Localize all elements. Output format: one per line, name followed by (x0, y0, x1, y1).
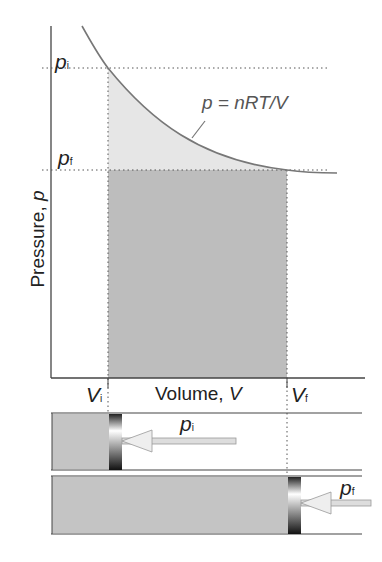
label-vi: Vi (86, 383, 102, 407)
equation-label: p = nRT/V (202, 92, 288, 114)
gas-initial (52, 414, 109, 469)
equation-pointer (192, 121, 205, 138)
piston-final (288, 477, 301, 534)
y-axis-label: Pressure, p (27, 159, 49, 319)
label-pf: pf (58, 146, 72, 170)
label-pi: pi (55, 50, 69, 74)
pv-diagram (0, 0, 382, 562)
x-axis-label: Volume, V (155, 383, 242, 405)
work-rectangle (108, 170, 287, 378)
cylinder-final-pressure: pf (340, 476, 354, 500)
gas-final (52, 477, 288, 533)
curve-area-region (108, 68, 287, 170)
piston-initial (109, 414, 122, 470)
label-vf: Vf (291, 383, 308, 407)
cylinder-initial-pressure: pi (180, 412, 194, 436)
